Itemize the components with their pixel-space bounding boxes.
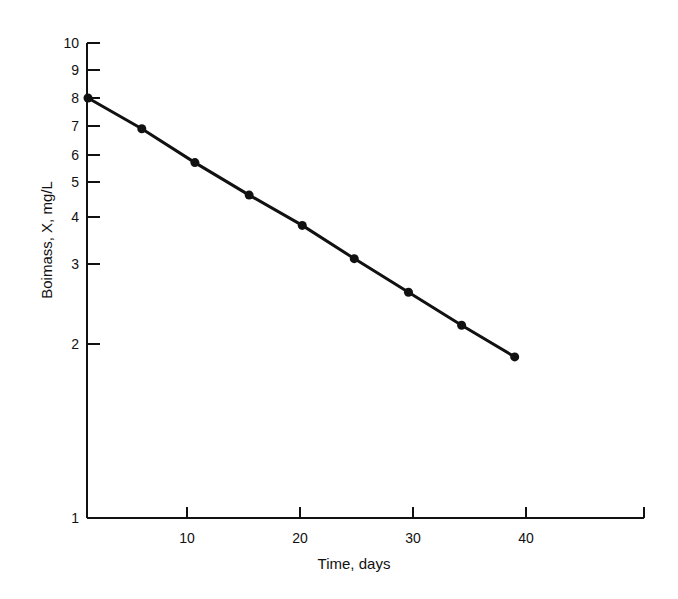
y-tick-label: 10 (63, 35, 79, 51)
x-tick-label: 20 (292, 530, 308, 546)
y-tick-label: 9 (71, 62, 79, 78)
y-tick-label: 4 (71, 209, 79, 225)
y-tick-label: 6 (71, 147, 79, 163)
data-point-marker (190, 158, 199, 167)
data-point-marker (350, 254, 359, 263)
biomass-decay-chart: 12345678910 10203040 Time, days Boimass,… (0, 0, 678, 599)
data-point-marker (510, 352, 519, 361)
y-tick-label: 3 (71, 256, 79, 272)
y-tick-label: 1 (71, 510, 79, 526)
y-tick-label: 5 (71, 174, 79, 190)
axes (87, 43, 644, 518)
data-point-marker (404, 288, 413, 297)
x-ticks: 10203040 (179, 507, 534, 546)
x-tick-label: 30 (405, 530, 421, 546)
y-ticks: 12345678910 (63, 35, 100, 526)
x-axis-title: Time, days (318, 555, 391, 572)
data-point-marker (137, 124, 146, 133)
y-axis-title: Boimass, X, mg/L (38, 181, 55, 299)
y-tick-label: 7 (71, 118, 79, 134)
data-point-marker (245, 191, 254, 200)
data-point-marker (298, 221, 307, 230)
y-tick-label: 2 (71, 336, 79, 352)
data-series (84, 94, 520, 362)
data-point-marker (457, 321, 466, 330)
x-tick-label: 10 (179, 530, 195, 546)
data-point-marker (84, 94, 93, 103)
y-tick-label: 8 (71, 90, 79, 106)
x-tick-label: 40 (518, 530, 534, 546)
